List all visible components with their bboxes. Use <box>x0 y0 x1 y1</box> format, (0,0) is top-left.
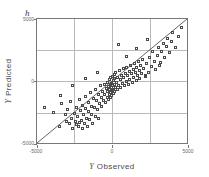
scatter-point <box>77 125 80 128</box>
scatter-point <box>135 47 138 50</box>
scatter-point <box>65 120 68 123</box>
y-axis-label-text: Predicted <box>4 59 13 96</box>
y-axis-label: Y Predicted <box>4 59 13 104</box>
scatter-point <box>118 69 121 72</box>
scatter-point <box>74 120 77 123</box>
x-axis-label-variable: Y <box>89 162 94 171</box>
scatter-plot-figure: h 5000 0 -5000 -5000 0 5000 Y Observed Y <box>0 0 209 177</box>
y-tick-top <box>34 19 37 20</box>
scatter-point <box>119 78 122 81</box>
scatter-point <box>160 50 163 53</box>
scatter-point <box>127 83 130 86</box>
scatter-point <box>145 62 148 65</box>
scatter-point <box>156 54 159 57</box>
scatter-point <box>104 101 107 104</box>
scatter-point <box>75 106 78 109</box>
x-tick-label-mid: 0 <box>111 148 114 154</box>
scatter-point <box>86 125 89 128</box>
scatter-point <box>171 31 174 34</box>
x-tick-label-left: -5000 <box>30 148 43 154</box>
scatter-point <box>137 60 140 63</box>
scatter-point <box>94 88 97 91</box>
scatter-point <box>165 45 168 48</box>
scatter-point <box>131 81 134 84</box>
scatter-point <box>71 127 74 130</box>
scatter-point <box>96 108 99 111</box>
scatter-point <box>82 113 85 116</box>
y-axis-label-variable: Y <box>4 99 13 104</box>
scatter-point <box>174 46 177 49</box>
scatter-point <box>43 106 46 109</box>
scatter-point <box>84 77 87 80</box>
scatter-point <box>69 100 72 103</box>
scatter-point <box>150 65 153 68</box>
scatter-point <box>154 68 157 71</box>
scatter-point <box>177 35 180 38</box>
scatter-point <box>130 72 133 75</box>
y-tick-label-bottom: -5000 <box>14 140 34 146</box>
scatter-point <box>122 67 125 70</box>
scatter-point <box>144 74 147 77</box>
scatter-point <box>81 127 84 130</box>
scatter-point <box>125 55 128 58</box>
y-tick-bottom <box>34 144 37 145</box>
scatter-point <box>129 64 132 67</box>
scatter-point <box>76 115 79 118</box>
x-tick-left <box>37 145 38 148</box>
scatter-point <box>89 91 92 94</box>
scatter-point <box>97 117 100 120</box>
scatter-point <box>58 125 61 128</box>
scatter-point <box>66 108 69 111</box>
scatter-point <box>142 67 145 70</box>
scatter-point <box>138 69 141 72</box>
scatter-point <box>148 56 151 59</box>
scatter-point <box>122 76 125 79</box>
scatter-point <box>68 122 71 125</box>
scatter-point <box>71 84 74 87</box>
y-axis-label-wrapper: Y Predicted <box>0 18 16 144</box>
plot-area <box>36 18 188 144</box>
scatter-point <box>158 64 161 67</box>
scatter-point <box>168 51 171 54</box>
scatter-point <box>126 74 129 77</box>
scatter-point <box>135 79 138 82</box>
scatter-point <box>123 84 126 87</box>
x-tick-label-right: 5000 <box>182 148 193 154</box>
y-tick-label-mid: 0 <box>18 78 34 84</box>
scatter-point <box>91 122 94 125</box>
scatter-point <box>119 86 122 89</box>
y-tick-label-top: 5000 <box>18 16 34 22</box>
scatter-point <box>153 60 156 63</box>
scatter-point <box>125 66 128 69</box>
scatter-point <box>100 105 103 108</box>
x-axis-label: Y Observed <box>36 162 188 171</box>
scatter-point <box>151 50 154 53</box>
scatter-point <box>117 43 120 46</box>
scatter-point <box>116 88 119 91</box>
scatter-point <box>99 84 102 87</box>
x-axis-label-text: Observed <box>97 162 135 171</box>
scatter-point <box>162 42 165 45</box>
scatter-point <box>64 113 67 116</box>
scatter-point <box>84 95 87 98</box>
scatter-point <box>134 71 137 74</box>
scatter-point <box>60 102 63 105</box>
scatter-point <box>163 56 166 59</box>
scatter-point <box>133 62 136 65</box>
x-tick-mid <box>112 145 113 148</box>
scatter-point <box>146 38 149 41</box>
scatter-point <box>96 71 99 74</box>
scatter-point <box>138 77 141 80</box>
scatter-point <box>166 37 169 40</box>
scatter-point <box>52 111 55 114</box>
scatter-point <box>180 26 183 29</box>
scatter-point <box>141 58 144 61</box>
scatter-point <box>157 46 160 49</box>
scatter-point <box>70 117 73 120</box>
x-tick-right <box>188 145 189 148</box>
scatter-point <box>78 98 81 101</box>
scatter-point <box>79 109 82 112</box>
scatter-point <box>147 71 150 74</box>
y-tick-mid <box>34 81 37 82</box>
scatter-point <box>114 71 117 74</box>
